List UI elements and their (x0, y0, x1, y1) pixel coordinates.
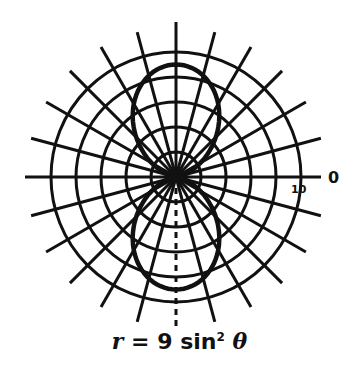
caption-exponent: 2 (216, 330, 224, 344)
polar-plot: 0 10 (0, 0, 359, 330)
radius-ten-label: 10 (291, 183, 307, 196)
equation-caption: r = 9 sin2 θ (0, 328, 359, 354)
caption-r: r (112, 328, 124, 354)
caption-eq: = 9 sin (123, 329, 216, 354)
caption-theta: θ (225, 328, 247, 354)
angle-zero-label: 0 (328, 168, 339, 187)
